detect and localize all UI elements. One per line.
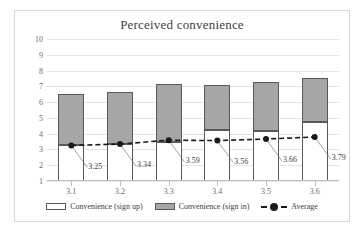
x-axis-tick-label: 3.2: [115, 187, 125, 196]
average-data-label: 3.59: [186, 156, 200, 165]
average-data-point-marker: [166, 137, 172, 143]
x-axis-tick-mark: [315, 181, 316, 186]
y-axis-tick-label: 10: [35, 35, 43, 44]
average-data-label: 3.56: [234, 157, 248, 166]
average-data-label: 3.34: [137, 160, 151, 169]
x-axis-tick-mark: [120, 181, 121, 186]
data-label-leader-line: [71, 146, 87, 168]
x-axis-tick-label: 3.4: [212, 187, 222, 196]
data-label-leader-line: [169, 140, 185, 162]
legend-item[interactable]: Convenience (sign in): [155, 202, 250, 211]
x-axis-line: [47, 180, 339, 181]
average-data-point-marker: [263, 136, 269, 142]
x-axis-tick-mark: [266, 181, 267, 186]
sign-in-swatch-icon: [155, 203, 175, 210]
data-label-leader-line: [315, 137, 331, 159]
chart-legend: Convenience (sign up)Convenience (sign i…: [15, 202, 349, 211]
average-data-point-marker: [68, 143, 74, 149]
average-legend-marker-icon: [261, 203, 287, 211]
data-label-leader-line: [120, 144, 136, 166]
legend-label: Average: [291, 202, 318, 211]
y-axis-tick-label: 3: [39, 145, 43, 154]
average-data-point-marker: [214, 138, 220, 144]
legend-label: Convenience (sign up): [70, 202, 142, 211]
x-axis-tick-label: 3.6: [310, 187, 320, 196]
y-axis-tick-label: 6: [39, 98, 43, 107]
y-axis-tick-label: 7: [39, 82, 43, 91]
gridline: [47, 181, 339, 182]
y-axis-tick-label: 1: [39, 177, 43, 186]
data-label-leader-line: [217, 141, 233, 163]
legend-item[interactable]: Convenience (sign up): [46, 202, 142, 211]
sign-up-swatch-icon: [46, 203, 66, 210]
chart-title: Perceived convenience: [15, 17, 349, 33]
average-data-label: 3.79: [332, 153, 346, 162]
data-label-leader-line: [266, 139, 282, 161]
average-data-label: 3.25: [88, 162, 102, 171]
y-axis-tick-label: 2: [39, 161, 43, 170]
average-data-point-marker: [312, 134, 318, 140]
average-data-point-marker: [117, 141, 123, 147]
legend-label: Convenience (sign in): [179, 202, 250, 211]
y-axis-tick-label: 9: [39, 50, 43, 59]
x-axis-tick-mark: [169, 181, 170, 186]
legend-item[interactable]: Average: [261, 202, 318, 211]
average-line-path: [71, 137, 314, 146]
x-axis-tick-mark: [217, 181, 218, 186]
chart-card: Perceived convenience 12345678910 3.13.2…: [14, 10, 350, 222]
x-axis-tick-label: 3.5: [261, 187, 271, 196]
average-data-label: 3.66: [283, 155, 297, 164]
x-axis-tick-label: 3.1: [66, 187, 76, 196]
y-axis-tick-label: 5: [39, 113, 43, 122]
plot-area: 12345678910 3.13.23.33.43.53.6 3.253.343…: [47, 39, 339, 181]
x-axis-tick-label: 3.3: [164, 187, 174, 196]
y-axis-tick-label: 8: [39, 66, 43, 75]
x-axis-tick-mark: [71, 181, 72, 186]
y-axis-tick-label: 4: [39, 129, 43, 138]
